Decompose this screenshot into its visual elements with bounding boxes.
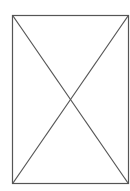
image-placeholder	[0, 0, 130, 191]
image-placeholder-icon	[0, 0, 130, 191]
